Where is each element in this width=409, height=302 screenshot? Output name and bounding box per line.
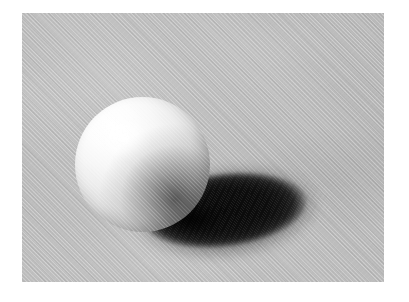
sphere-weave-texture <box>75 97 210 232</box>
screenshot-canvas <box>0 0 409 302</box>
illustration-plate <box>22 13 384 282</box>
sphere-object <box>75 97 210 232</box>
sphere-specular-highlight <box>94 111 162 173</box>
sphere-bounce-light <box>75 97 210 232</box>
